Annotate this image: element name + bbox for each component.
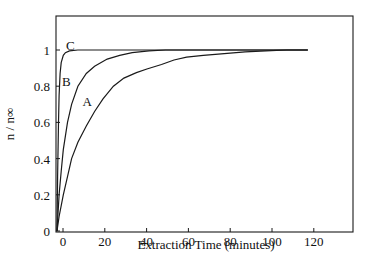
y-tick-label: 0.4 [34,152,51,167]
curve-label-c: C [66,38,75,53]
y-axis-title: n / n∞ [2,108,17,140]
plot-frame [56,16,353,232]
curve-label-b: B [62,74,71,89]
x-tick-label: 120 [304,234,324,249]
curve-c [57,50,308,231]
curve-a [57,50,308,231]
x-tick-label: 20 [98,234,111,249]
y-tick-label: 0 [44,224,51,239]
chart: 00.20.40.60.81 020406080100120 ABC Extra… [0,0,366,273]
y-tick-label: 0.6 [34,115,51,130]
x-axis-title: Extraction Time (minutes) [137,237,274,252]
curve-b [57,50,308,231]
x-tick-label: 0 [60,234,67,249]
curve-labels: ABC [62,38,93,109]
curves [57,50,308,231]
y-tick-label: 0.8 [34,79,50,94]
y-tick-label: 1 [44,43,51,58]
curve-label-a: A [82,94,92,109]
y-tick-label: 0.2 [34,188,50,203]
